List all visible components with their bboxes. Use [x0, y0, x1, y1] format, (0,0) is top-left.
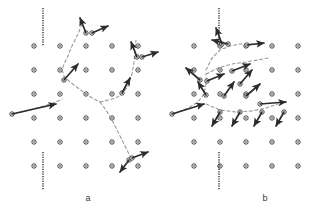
lattice-point-core [219, 141, 221, 143]
lattice-point-core [85, 69, 87, 71]
lattice-point-core [245, 141, 247, 143]
lattice-point-core [85, 45, 87, 47]
lattice-point-core [219, 93, 221, 95]
lattice-point-core [245, 117, 247, 119]
lattice-point-core [33, 165, 35, 167]
lattice-point-core [219, 117, 221, 119]
lattice-point-core [33, 93, 35, 95]
lattice-point-core [297, 45, 299, 47]
lattice-point-core [193, 45, 195, 47]
lattice-point-core [111, 141, 113, 143]
lattice-point-core [85, 117, 87, 119]
lattice-point-core [137, 141, 139, 143]
figure-container: ab [0, 0, 321, 217]
lattice-point-core [33, 117, 35, 119]
lattice-point-core [271, 165, 273, 167]
lattice-point-core [59, 93, 61, 95]
lattice-point-core [245, 165, 247, 167]
lattice-point-core [59, 165, 61, 167]
lattice-point-core [111, 93, 113, 95]
panel-b-label: b [262, 193, 267, 203]
lattice-point-core [193, 69, 195, 71]
lattice-point-core [193, 93, 195, 95]
lattice-point-core [85, 165, 87, 167]
lattice-point-core [33, 45, 35, 47]
lattice-point-core [271, 69, 273, 71]
lattice-point-core [85, 141, 87, 143]
lattice-point-core [137, 69, 139, 71]
lattice-point-core [297, 117, 299, 119]
lattice-point-core [59, 69, 61, 71]
lattice-point-core [111, 45, 113, 47]
lattice-displacement-figure: ab [0, 0, 321, 217]
lattice-point-core [297, 93, 299, 95]
lattice-point-core [193, 141, 195, 143]
lattice-point-core [59, 45, 61, 47]
lattice-point-core [271, 45, 273, 47]
lattice-point-core [137, 165, 139, 167]
lattice-point-core [297, 69, 299, 71]
panel-a-label: a [85, 193, 90, 203]
lattice-point-core [219, 69, 221, 71]
lattice-point-core [59, 141, 61, 143]
lattice-point-core [111, 69, 113, 71]
lattice-point-core [59, 117, 61, 119]
lattice-point-core [137, 93, 139, 95]
lattice-point-core [111, 165, 113, 167]
lattice-point-core [137, 117, 139, 119]
lattice-point-core [33, 69, 35, 71]
lattice-point-core [297, 165, 299, 167]
lattice-point-core [33, 141, 35, 143]
lattice-point-core [297, 141, 299, 143]
lattice-point-core [271, 93, 273, 95]
lattice-point-core [137, 45, 139, 47]
figure-background [0, 0, 321, 217]
lattice-point-core [271, 141, 273, 143]
lattice-point-core [245, 69, 247, 71]
lattice-point-core [271, 117, 273, 119]
lattice-point-core [193, 117, 195, 119]
lattice-point-core [193, 165, 195, 167]
